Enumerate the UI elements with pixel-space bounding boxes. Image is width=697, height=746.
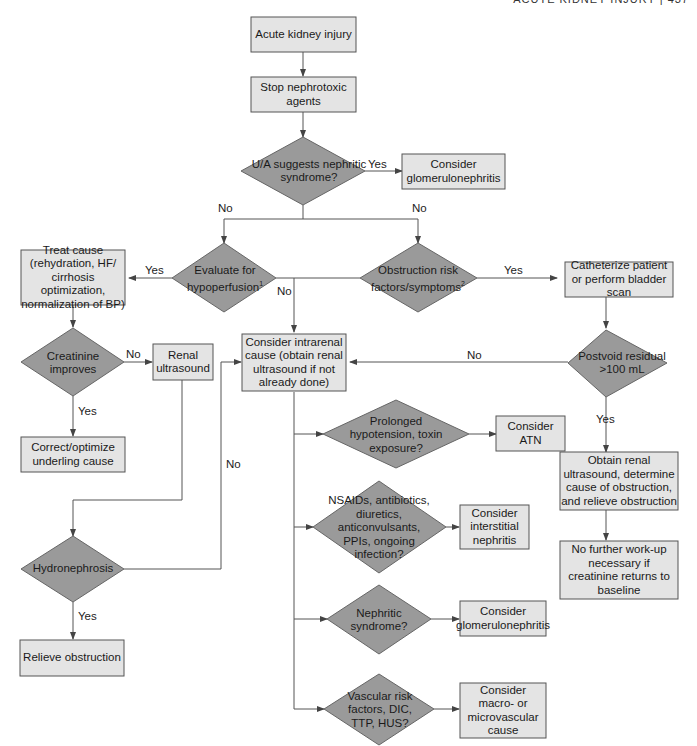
edge-label-postvoid-no: No xyxy=(467,349,482,361)
hypoperfusion-label: Evaluate for hypoperfusion xyxy=(187,264,259,293)
decision-vascular-risk: Vascular risk factors, DIC, TTP, HUS? xyxy=(340,688,420,732)
node-correct-optimize: Correct/optimize underling cause xyxy=(23,437,123,472)
node-consider-intrarenal: Consider intrarenal cause (obtain renal … xyxy=(244,334,344,391)
edge-label-hydronephrosis-no: No xyxy=(226,458,241,470)
footnote-1: 1 xyxy=(259,280,263,287)
node-obtain-renal-ultrasound: Obtain renal ultrasound, determine cause… xyxy=(560,452,678,510)
node-consider-atn: Consider ATN xyxy=(496,416,565,451)
node-treat-cause: Treat cause (rehydration, HF/ cirrhosis … xyxy=(21,250,125,305)
edge-label-obstruction-yes: Yes xyxy=(504,264,523,276)
edge-label-creatinine-yes: Yes xyxy=(78,405,97,417)
edge-label-hydronephrosis-yes: Yes xyxy=(78,610,97,622)
node-relieve-obstruction: Relieve obstruction xyxy=(20,640,124,676)
node-no-further-workup: No further work-up necessary if creatini… xyxy=(562,541,676,599)
edge-label-hypo-no: No xyxy=(277,285,292,297)
node-renal-ultrasound: Renal ultrasound xyxy=(153,344,213,380)
decision-prolonged-hypotension: Prolonged hypotension, toxin exposure? xyxy=(340,414,452,456)
decision-nephritic-syndrome: Nephritic syndrome? xyxy=(344,605,414,635)
node-acute-kidney-injury: Acute kidney injury xyxy=(251,17,356,52)
node-catheterize: Catheterize patient or perform bladder s… xyxy=(565,262,673,297)
decision-postvoid-residual: Postvoid residual >100 mL xyxy=(574,348,670,378)
edge-label-ua-yes: Yes xyxy=(368,158,387,170)
edge-label-creatinine-no: No xyxy=(126,348,141,360)
node-consider-macro-microvascular: Consider macro- or microvascular cause xyxy=(462,683,544,738)
node-consider-glomerulonephritis-bottom: Consider glomerulonephritis xyxy=(460,601,546,636)
edge-label-ua-no-left: No xyxy=(218,202,233,214)
decision-creatinine-improves: Creatinine improves xyxy=(40,348,106,378)
edge-label-postvoid-yes: Yes xyxy=(596,413,615,425)
node-consider-interstitial-nephritis: Consider interstitial nephritis xyxy=(460,505,529,549)
node-consider-glomerulonephritis-top: Consider glomerulonephritis xyxy=(406,154,501,189)
decision-evaluate-hypoperfusion: Evaluate for hypoperfusion1 xyxy=(180,264,270,294)
decision-nsaids: NSAIDs, antibiotics, diuretics, anticonv… xyxy=(324,500,434,556)
decision-hydronephrosis: Hydronephrosis xyxy=(23,560,123,578)
decision-ua-nephritic: U/A suggests nephritic syndrome? xyxy=(249,150,369,192)
edge-label-ua-no-right: No xyxy=(412,202,427,214)
edge-label-hypo-yes: Yes xyxy=(145,264,164,276)
node-stop-nephrotoxic-agents: Stop nephrotoxic agents xyxy=(256,77,351,112)
decision-obstruction-risk: Obstruction risk factors/symptoms2 xyxy=(366,264,470,294)
footnote-2: 2 xyxy=(461,280,465,287)
obstruction-label: Obstruction risk factors/symptoms xyxy=(371,264,461,293)
